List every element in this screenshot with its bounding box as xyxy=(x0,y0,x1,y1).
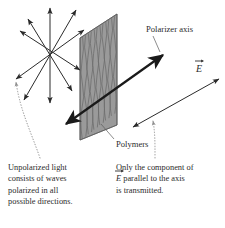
polarization-figure: Polarizer axis Polymers E Unpolarized li… xyxy=(0,0,225,228)
polarizer-sheet xyxy=(80,14,117,140)
caption-right-line-3: is transmitted. xyxy=(116,185,220,196)
caption-e-field-letter: E xyxy=(116,174,121,183)
caption-left-line-4: possible directions. xyxy=(8,196,108,207)
label-polymers: Polymers xyxy=(116,139,148,151)
leader-line-transmitted xyxy=(153,121,155,158)
leader-line-polarizer-axis xyxy=(153,36,160,52)
caption-unpolarized: Unpolarized light consists of waves pola… xyxy=(8,162,108,208)
label-e-field: E xyxy=(196,63,202,75)
label-polarizer-axis: Polarizer axis xyxy=(146,24,193,36)
caption-e-field-vector-symbol: E xyxy=(116,173,121,184)
caption-right-line-1: Only the component of xyxy=(116,162,220,173)
caption-transmitted: Only the component of E parallel to the … xyxy=(116,162,220,196)
caption-left-line-1: Unpolarized light xyxy=(8,162,108,173)
caption-right-line-2: E parallel to the axis xyxy=(116,173,220,184)
caption-right-line-2-rest: parallel to the axis xyxy=(121,174,185,183)
e-field-letter: E xyxy=(196,63,202,74)
e-field-vector-symbol: E xyxy=(196,63,202,75)
caption-left-line-2: consists of waves xyxy=(8,173,108,184)
transmitted-e-field-arrow xyxy=(133,79,219,127)
unpolarized-light-starburst xyxy=(16,8,84,103)
caption-left-line-3: polarized in all xyxy=(8,185,108,196)
